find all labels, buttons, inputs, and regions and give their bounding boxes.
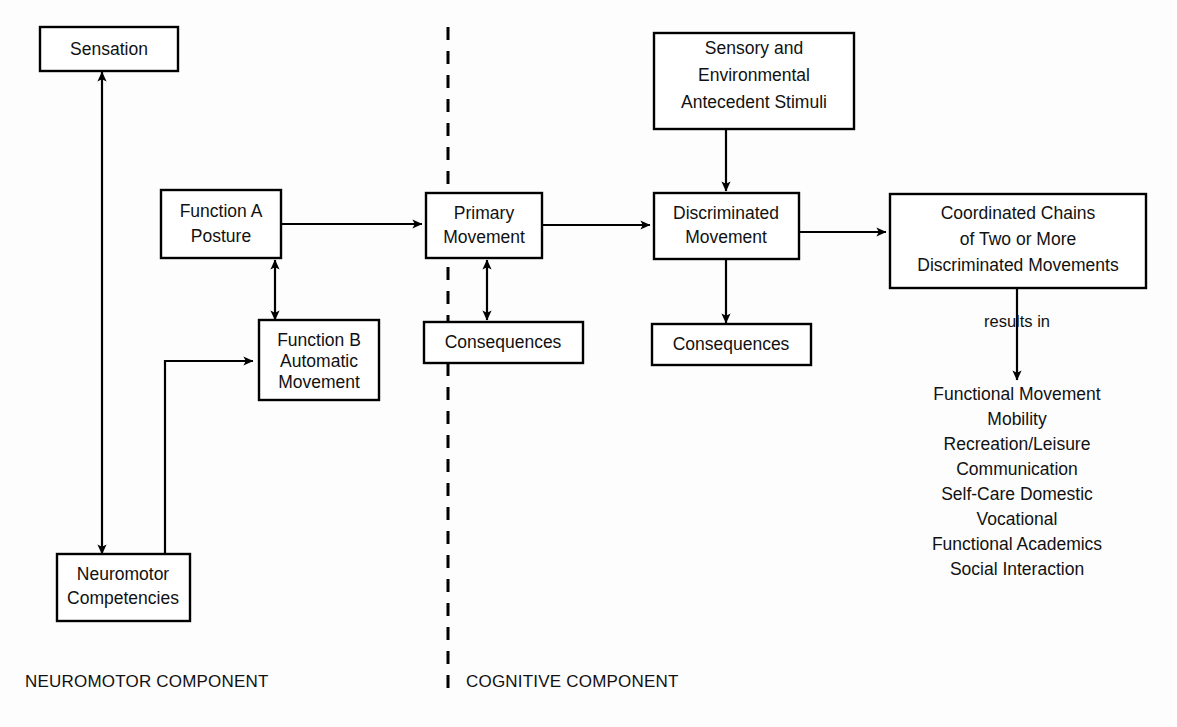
node-antecedent-label-line-3: Antecedent Stimuli [681,92,827,112]
caption-neuromotor-component: NEUROMOTOR COMPONENT [25,672,269,691]
outcome-item-2: Mobility [987,409,1047,429]
node-function-b-label-line-2: Automatic [280,351,358,371]
outcome-item-3: Recreation/Leisure [944,434,1091,454]
caption-cognitive-component: COGNITIVE COMPONENT [466,672,679,691]
node-consequences-primary-label: Consequences [445,332,562,352]
flow-diagram: Sensation Function A Posture Function B … [0,0,1177,727]
node-coordinated-chains-label-line-1: Coordinated Chains [941,203,1096,223]
outcome-item-1: Functional Movement [933,384,1100,404]
connector-neuromotor-function-b [165,361,253,554]
annotation-results-in: results in [984,312,1050,330]
node-function-a-label-line-2: Posture [191,226,251,246]
node-antecedent-label-line-2: Environmental [698,65,810,85]
outcome-item-7: Functional Academics [932,534,1102,554]
node-discriminated-label-line-1: Discriminated [673,203,779,223]
node-sensation-label-line-1: Sensation [70,39,148,59]
node-consequences-discriminated-label: Consequences [673,334,790,354]
node-function-b-label-line-3: Movement [278,372,360,392]
outcome-item-5: Self-Care Domestic [941,484,1093,504]
node-function-b-label-line-1: Function B [277,330,361,350]
node-neuromotor-label-line-2: Competencies [67,588,179,608]
flow-diagram-canvas: Sensation Function A Posture Function B … [0,0,1177,727]
outcome-item-6: Vocational [977,509,1058,529]
node-primary-movement-label-line-1: Primary [454,203,515,223]
outcome-item-8: Social Interaction [950,559,1084,579]
node-coordinated-chains-label-line-2: of Two or More [960,229,1076,249]
outcome-item-4: Communication [956,459,1078,479]
node-function-a-label-line-1: Function A [180,201,263,221]
node-discriminated-label-line-2: Movement [685,227,767,247]
node-primary-movement-label-line-2: Movement [443,227,525,247]
node-coordinated-chains-label-line-3: Discriminated Movements [917,255,1119,275]
node-neuromotor-label-line-1: Neuromotor [77,564,170,584]
node-antecedent-label-line-1: Sensory and [705,38,803,58]
